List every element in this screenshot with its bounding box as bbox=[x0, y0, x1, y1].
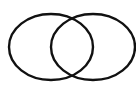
venn-diagram bbox=[0, 0, 136, 89]
